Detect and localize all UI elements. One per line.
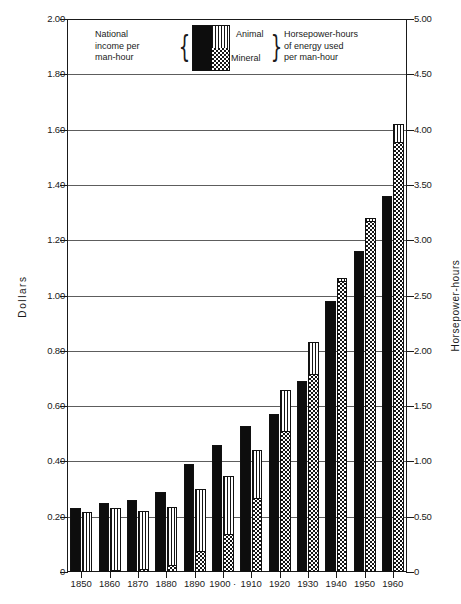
gridline (67, 185, 407, 186)
bar-income (70, 508, 81, 572)
bar-income (325, 301, 336, 572)
bar-segment-divider (83, 571, 92, 572)
bar-segment-divider (139, 569, 148, 570)
bar-segment-divider (338, 281, 347, 282)
y-tick-mark-right (406, 461, 414, 462)
legend-swatch (192, 25, 230, 71)
bar-energy (393, 124, 404, 572)
legend-income-line2: income per (95, 41, 140, 53)
chart-legend: National income per man-hour { Animal Mi… (95, 22, 340, 74)
bar-segment-animal (139, 512, 148, 568)
legend-income-label: National income per man-hour (95, 29, 140, 64)
y-tick-label-right: 4.50 (414, 68, 454, 79)
gridline (67, 240, 407, 241)
legend-swatch-animal (212, 26, 229, 48)
bar-segment-divider (111, 570, 120, 571)
bar-income (99, 503, 110, 572)
legend-right-brace: } (271, 32, 282, 62)
y-tick-label-left: 0.20 (25, 511, 65, 522)
bar-segment-animal (83, 513, 92, 571)
y-tick-label-left: 1.00 (25, 290, 65, 301)
y-tick-label-right: 3.00 (414, 234, 454, 245)
legend-swatch-mineral (212, 48, 229, 70)
bar-segment-divider (394, 142, 403, 143)
bar-segment-divider (366, 221, 375, 222)
y-tick-label-left: 0.40 (25, 455, 65, 466)
y-tick-label-right: 0 (414, 566, 454, 577)
y-tick-label-left: 1.20 (25, 234, 65, 245)
y-axis-right-title: Horsepower-hours (450, 241, 461, 371)
bar-income (382, 196, 393, 572)
bar-income (297, 381, 308, 572)
y-tick-label-right: 1.00 (414, 455, 454, 466)
bar-income (269, 414, 280, 572)
y-tick-label-right: 5.00 (414, 13, 454, 24)
bar-segment-divider (309, 374, 318, 375)
y-tick-mark-right (406, 74, 414, 75)
bar-segment-mineral (196, 549, 205, 571)
legend-income-line3: man-hour (95, 52, 140, 64)
bar-energy (138, 511, 149, 572)
bar-energy (308, 342, 319, 572)
bar-income (354, 251, 365, 572)
bar-segment-mineral (338, 279, 347, 571)
bar-energy (82, 512, 93, 572)
bar-income (212, 445, 223, 572)
y-tick-mark-right (406, 296, 414, 297)
y-tick-mark-right (406, 351, 414, 352)
bar-segment-mineral (224, 532, 233, 571)
y-tick-mark-right (406, 406, 414, 407)
bar-segment-divider (253, 498, 262, 499)
bar-energy (252, 450, 263, 572)
bar-income (127, 500, 138, 572)
bar-segment-divider (224, 534, 233, 535)
bar-segment-animal (394, 125, 403, 142)
x-tick-label: 1960 (371, 578, 415, 589)
bar-segment-mineral (309, 372, 318, 571)
y-tick-mark-right (406, 19, 414, 20)
bar-segment-mineral (281, 429, 290, 571)
y-tick-label-left: 1.40 (25, 179, 65, 190)
bar-energy (167, 507, 178, 572)
bar-segment-mineral (394, 140, 403, 571)
bar-segment-divider (168, 565, 177, 566)
legend-animal-label: Animal (236, 29, 264, 41)
y-tick-mark-right (406, 130, 414, 131)
legend-energy-line3: per man-hour (284, 52, 358, 64)
bar-segment-animal (196, 490, 205, 551)
bar-income (155, 492, 166, 572)
y-tick-mark-right (406, 517, 414, 518)
y-tick-mark-right (406, 185, 414, 186)
bar-segment-divider (196, 551, 205, 552)
y-tick-label-left: 2.00 (25, 13, 65, 24)
y-tick-label-right: 0.50 (414, 511, 454, 522)
bar-segment-animal (224, 477, 233, 535)
legend-left-brace: { (179, 32, 190, 62)
bar-energy (280, 390, 291, 573)
y-tick-mark-right (406, 240, 414, 241)
gridline (67, 74, 407, 75)
gridline (67, 130, 407, 131)
bar-energy (195, 489, 206, 572)
legend-income-line1: National (95, 29, 140, 41)
y-axis-left-title: Dollars (17, 252, 28, 342)
y-tick-mark-right (406, 572, 414, 573)
legend-energy-line2: of energy used (284, 41, 358, 53)
y-tick-label-left: 1.60 (25, 124, 65, 135)
bar-segment-animal (309, 343, 318, 374)
y-tick-label-left: 1.80 (25, 68, 65, 79)
legend-energy-line1: Horsepower-hours (284, 29, 358, 41)
bar-segment-animal (168, 508, 177, 566)
bar-segment-animal (111, 509, 120, 570)
bar-segment-divider (281, 431, 290, 432)
bar-income (240, 426, 251, 573)
y-tick-label-right: 2.50 (414, 290, 454, 301)
bar-segment-mineral (253, 496, 262, 571)
legend-mineral-label: Mineral (231, 53, 261, 65)
bar-income (184, 464, 195, 572)
legend-energy-label: Horsepower-hours of energy used per man-… (284, 29, 358, 64)
bar-energy (337, 278, 348, 572)
bar-segment-mineral (366, 219, 375, 571)
y-tick-label-right: 1.50 (414, 400, 454, 411)
y-tick-label-left: 0.80 (25, 345, 65, 356)
